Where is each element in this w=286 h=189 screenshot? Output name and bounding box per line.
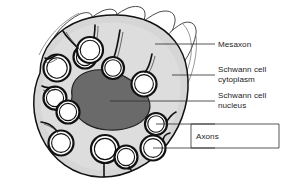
axon (49, 131, 74, 156)
schwann-cell-diagram: Mesaxon Schwann cell cytoplasm Schwann c… (0, 0, 286, 189)
axon (77, 37, 103, 63)
axon (57, 101, 80, 124)
axon (102, 57, 124, 79)
diagram-canvas: Mesaxon Schwann cell cytoplasm Schwann c… (0, 0, 286, 189)
axon (132, 72, 157, 97)
axon (115, 146, 138, 169)
label-axons: Axons (196, 132, 219, 141)
label-schwann-cell-nucleus-line2: nucleus (218, 101, 246, 110)
label-schwann-cell-cytoplasm-line2: cytoplasm (218, 75, 255, 84)
label-schwann-cell-cytoplasm-line1: Schwann cell (218, 65, 266, 74)
label-schwann-cell-nucleus-line1: Schwann cell (218, 91, 266, 100)
mesaxon-channel (129, 167, 131, 170)
label-mesaxon: Mesaxon (218, 40, 251, 49)
